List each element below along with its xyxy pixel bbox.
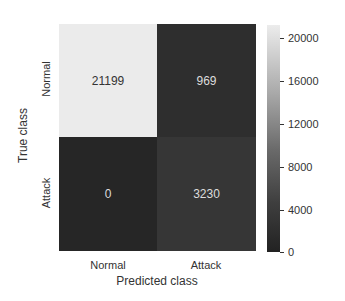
colorbar-tick <box>280 81 284 82</box>
x-tick-label-normal: Normal <box>90 259 125 271</box>
x-axis-title: Predicted class <box>116 274 197 288</box>
cell-value: 21199 <box>92 74 124 88</box>
colorbar-tick-label: 16000 <box>288 75 319 87</box>
x-tick-label-attack: Attack <box>191 259 222 271</box>
colorbar-tick <box>280 38 284 39</box>
colorbar-tick-label: 0 <box>288 246 294 258</box>
colorbar-tick <box>280 124 284 125</box>
colorbar-tick <box>280 167 284 168</box>
colorbar-tick-label: 8000 <box>288 161 312 173</box>
cell-value: 0 <box>105 187 112 201</box>
colorbar-tick-label: 12000 <box>288 118 319 130</box>
cell-value: 969 <box>196 74 216 88</box>
y-tick-label-attack: Attack <box>40 173 52 213</box>
cell-attack-normal: 0 <box>59 137 157 251</box>
cell-attack-attack: 3230 <box>157 137 256 251</box>
cell-normal-attack: 969 <box>157 24 256 137</box>
colorbar-tick-label: 20000 <box>288 32 319 44</box>
y-tick-label-normal: Normal <box>40 59 52 99</box>
colorbar-tick <box>280 210 284 211</box>
colorbar <box>267 25 280 252</box>
colorbar-tick <box>280 252 284 253</box>
cell-value: 3230 <box>193 187 220 201</box>
colorbar-tick-label: 4000 <box>288 204 312 216</box>
cell-normal-normal: 21199 <box>59 24 157 137</box>
y-axis-title: True class <box>16 113 30 163</box>
